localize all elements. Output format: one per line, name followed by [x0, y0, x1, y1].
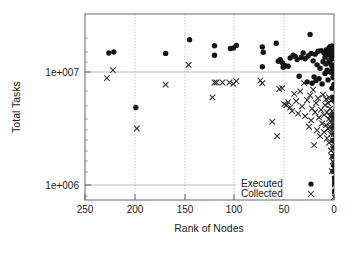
legend: Executed Collected	[236, 177, 332, 199]
data-point-collected	[314, 127, 320, 133]
xtick-label-150: 150	[177, 204, 194, 215]
data-point-collected	[163, 82, 169, 88]
data-point-executed	[307, 32, 312, 37]
scatter-chart-figure: Executed Collected 1e+007 1e+006 250 200…	[0, 0, 358, 253]
data-point-collected	[210, 95, 216, 101]
data-point-collected	[316, 115, 322, 121]
data-point-collected	[259, 80, 265, 86]
data-point-collected	[315, 95, 321, 101]
data-point-executed	[261, 50, 266, 55]
x-axis-title: Rank of Nodes	[174, 222, 243, 234]
legend-marker-executed-icon	[308, 181, 313, 186]
data-point-collected	[310, 87, 316, 93]
data-point-executed	[260, 64, 265, 69]
plot-canvas: Executed Collected 1e+007 1e+006 250 200…	[0, 0, 358, 253]
data-point-collected	[306, 124, 312, 130]
data-point-executed	[187, 37, 192, 42]
data-point-collected	[302, 113, 308, 119]
data-point-collected	[313, 100, 319, 106]
xtick-label-200: 200	[127, 204, 144, 215]
data-point-collected	[269, 119, 275, 125]
data-point-collected	[307, 93, 313, 99]
data-point-collected	[308, 118, 314, 124]
data-point-executed	[331, 72, 336, 77]
data-point-executed	[300, 50, 305, 55]
data-point-executed	[111, 49, 116, 54]
legend-label-collected: Collected	[241, 188, 283, 199]
data-point-executed	[274, 41, 279, 46]
data-point-collected	[297, 89, 303, 95]
data-point-executed	[310, 58, 315, 63]
ytick-label-1e007: 1e+007	[45, 67, 79, 78]
data-point-collected	[299, 104, 305, 110]
plot-border	[85, 14, 334, 200]
data-point-collected	[291, 91, 297, 97]
data-point-executed	[106, 50, 111, 55]
data-point-collected	[186, 62, 192, 68]
data-point-executed	[330, 168, 335, 173]
y-axis-title: Total Tasks	[10, 81, 22, 133]
data-point-collected	[311, 142, 317, 148]
data-point-executed	[331, 55, 336, 60]
xtick-label-0: 0	[331, 204, 337, 215]
data-point-executed	[234, 43, 239, 48]
xtick-label-50: 50	[278, 204, 290, 215]
data-point-collected	[274, 133, 280, 139]
data-point-collected	[295, 111, 301, 117]
data-point-collected	[322, 102, 328, 108]
data-point-collected	[304, 97, 310, 103]
data-point-collected	[104, 75, 110, 81]
data-point-executed	[331, 49, 336, 54]
plot-frame	[85, 14, 334, 200]
data-point-executed	[260, 44, 265, 49]
axis-labels: 1e+007 1e+006 250 200 150 100 50 0 Rank …	[10, 67, 337, 234]
xtick-label-100: 100	[226, 204, 243, 215]
grid-lines	[85, 14, 334, 200]
data-point-executed	[331, 63, 336, 68]
data-point-executed	[325, 77, 330, 82]
data-point-collected	[293, 98, 299, 104]
ytick-label-1e006: 1e+006	[45, 180, 79, 191]
data-point-collected	[312, 109, 318, 115]
data-point-executed	[319, 81, 324, 86]
data-points-layer	[104, 32, 337, 200]
data-point-executed	[212, 53, 217, 58]
data-point-collected	[220, 80, 226, 86]
xtick-label-250: 250	[77, 204, 94, 215]
data-point-executed	[163, 51, 168, 56]
y-axis-ticks	[85, 38, 91, 196]
data-point-collected	[234, 78, 240, 84]
data-point-executed	[212, 43, 217, 48]
data-point-executed	[316, 76, 321, 81]
data-point-executed	[331, 82, 336, 87]
data-point-executed	[133, 105, 138, 110]
series-executed	[106, 32, 336, 194]
data-point-executed	[296, 74, 301, 79]
data-point-executed	[317, 65, 322, 70]
data-point-executed	[285, 64, 290, 69]
